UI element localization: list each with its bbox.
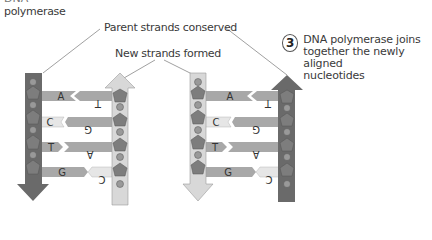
parent-strands-label: Parent strands conserved — [104, 22, 237, 34]
left-parent-base-3: T — [47, 142, 55, 153]
right-helix: A C T G T G A C — [183, 73, 303, 202]
right-new-base-2: C — [213, 117, 220, 128]
step-3-annotation: 3 DNA polymerase joins together the newl… — [282, 34, 432, 82]
right-parent-base-1: T — [264, 98, 272, 109]
step-line-2: together the newly aligned — [303, 46, 432, 70]
right-new-base-3: T — [211, 142, 219, 153]
left-new-base-3: A — [86, 149, 93, 160]
parent-leader-line-right — [226, 28, 287, 75]
left-helix: A C T G T G A C — [17, 73, 135, 205]
right-parent-base-4: C — [265, 174, 272, 185]
left-new-base-1: T — [94, 98, 102, 109]
left-parent-base-4: G — [58, 167, 66, 178]
parent-leader-line-left — [43, 29, 100, 73]
right-new-base-4: G — [224, 167, 232, 178]
right-parent-base-3: A — [252, 149, 259, 160]
step-description: DNA polymerase joins together the newly … — [303, 34, 432, 82]
step-number-badge: 3 — [282, 34, 298, 52]
right-new-base-1: A — [227, 91, 234, 102]
left-parent-base-1: A — [58, 91, 65, 102]
new-strands-label: New strands formed — [115, 48, 221, 60]
left-parent-base-2: C — [47, 117, 54, 128]
left-new-base-4: C — [98, 174, 105, 185]
right-parent-base-2: G — [252, 124, 260, 135]
left-new-base-2: G — [84, 124, 92, 135]
new-leader-line-left — [124, 60, 155, 78]
step-line-3: nucleotides — [303, 70, 432, 82]
